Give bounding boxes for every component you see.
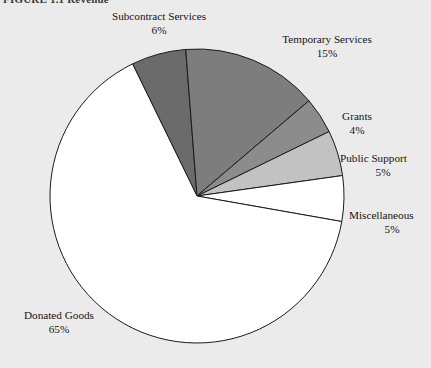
- slice-label-temporary-services: Temporary Services 15%: [267, 33, 387, 60]
- slice-label-value: 4%: [327, 124, 387, 138]
- slice-label-name: Grants: [327, 110, 387, 124]
- slice-label-donated-goods: Donated Goods 65%: [6, 309, 112, 336]
- slice-label-value: 5%: [349, 223, 431, 237]
- slice-label-grants: Grants 4%: [327, 110, 387, 137]
- slice-label-public-support: Public Support 5%: [340, 152, 431, 179]
- slice-label-value: 5%: [340, 166, 426, 180]
- slice-label-name: Subcontract Services: [100, 10, 218, 24]
- slice-label-name: Miscellaneous: [349, 209, 431, 223]
- figure-root: FIGURE 1.1 Revenue Subcontract Services …: [0, 0, 431, 368]
- slice-label-name: Public Support: [340, 152, 431, 166]
- slice-label-subcontract-services: Subcontract Services 6%: [100, 10, 218, 37]
- slice-label-miscellaneous: Miscellaneous 5%: [349, 209, 431, 236]
- slice-label-value: 15%: [267, 47, 387, 61]
- slice-label-value: 65%: [6, 323, 112, 337]
- pie-slice-group: [50, 49, 344, 343]
- slice-label-value: 6%: [100, 24, 218, 38]
- slice-label-name: Donated Goods: [6, 309, 112, 323]
- slice-label-name: Temporary Services: [267, 33, 387, 47]
